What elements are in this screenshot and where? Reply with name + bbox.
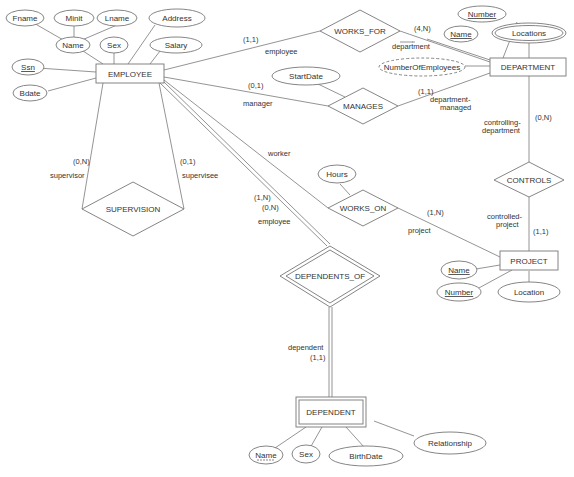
svg-text:Name: Name bbox=[255, 451, 277, 460]
role-works-for-department: department bbox=[392, 42, 431, 51]
svg-text:PROJECT: PROJECT bbox=[510, 257, 547, 266]
attr-fname: Fname bbox=[6, 10, 44, 26]
attr-project-location: Location bbox=[498, 282, 560, 302]
role-dependents-of-employee: employee bbox=[258, 217, 291, 226]
attr-number-of-employees-derived: NumberOfEmployees bbox=[379, 58, 465, 76]
svg-text:DEPENDENT: DEPENDENT bbox=[306, 408, 355, 417]
svg-text:Sex: Sex bbox=[299, 450, 313, 459]
svg-text:Locations: Locations bbox=[512, 29, 546, 38]
svg-text:Name: Name bbox=[62, 41, 84, 50]
svg-text:DEPENDENTS_OF: DEPENDENTS_OF bbox=[295, 272, 365, 281]
svg-text:Number: Number bbox=[468, 10, 497, 19]
attr-relationship: Relationship bbox=[414, 432, 486, 454]
svg-text:WORKS_ON: WORKS_ON bbox=[340, 204, 387, 213]
svg-text:StartDate: StartDate bbox=[289, 72, 323, 81]
svg-text:Bdate: Bdate bbox=[20, 89, 41, 98]
attr-lname: Lname bbox=[97, 10, 137, 26]
svg-text:Ssn: Ssn bbox=[21, 63, 35, 72]
svg-text:Name: Name bbox=[450, 30, 472, 39]
role-manages-manager: manager bbox=[243, 99, 273, 108]
svg-text:CONTROLS: CONTROLS bbox=[507, 176, 551, 185]
attr-bdate: Bdate bbox=[13, 85, 47, 101]
role-works-on-project: project bbox=[408, 226, 431, 235]
role-supervision-supervisor: supervisor bbox=[50, 171, 85, 180]
attr-locations-multivalued: Locations bbox=[492, 23, 566, 43]
role-dependents-of-dependent: dependent bbox=[288, 343, 324, 352]
role-controls-project-line2: project bbox=[496, 220, 519, 229]
role-controls-department-line2: department bbox=[482, 126, 521, 135]
relationship-supervision[interactable]: SUPERVISION bbox=[82, 182, 184, 236]
entity-employee[interactable]: EMPLOYEE bbox=[96, 64, 164, 83]
attr-name: Name bbox=[56, 37, 90, 53]
svg-text:Address: Address bbox=[162, 14, 191, 23]
card-works-on-project: (1,N) bbox=[427, 208, 444, 217]
attr-hours: Hours bbox=[318, 165, 356, 183]
svg-text:BirthDate: BirthDate bbox=[349, 452, 383, 461]
svg-text:Hours: Hours bbox=[326, 170, 347, 179]
svg-text:Minit: Minit bbox=[66, 14, 84, 23]
svg-text:Number: Number bbox=[445, 288, 474, 297]
attr-project-name-key: Name bbox=[441, 261, 477, 279]
svg-text:Fname: Fname bbox=[13, 14, 38, 23]
attr-sex: Sex bbox=[100, 37, 128, 53]
svg-text:Name: Name bbox=[448, 266, 470, 275]
card-supervision-supervisor: (0,N) bbox=[73, 157, 90, 166]
svg-text:EMPLOYEE: EMPLOYEE bbox=[108, 70, 152, 79]
attr-dept-name-key: Name bbox=[444, 26, 478, 42]
card-works-for-employee: (1,1) bbox=[243, 35, 259, 44]
attr-ssn-key: Ssn bbox=[12, 59, 44, 75]
attr-address: Address bbox=[149, 9, 205, 27]
card-manages-employee: (0,1) bbox=[248, 81, 264, 90]
card-supervision-supervisee: (0,1) bbox=[180, 157, 196, 166]
attr-project-number-key: Number bbox=[437, 283, 481, 301]
attr-salary: Salary bbox=[150, 37, 202, 53]
attr-dependent-sex: Sex bbox=[292, 445, 320, 463]
relationship-dependents-of[interactable]: DEPENDENTS_OF bbox=[280, 246, 380, 307]
role-works-on-worker: worker bbox=[267, 149, 291, 158]
svg-text:Lname: Lname bbox=[105, 14, 130, 23]
relationship-works-on[interactable]: WORKS_ON bbox=[328, 190, 398, 226]
card-dependents-of-employee: (0,N) bbox=[262, 203, 279, 212]
svg-text:WORKS_FOR: WORKS_FOR bbox=[334, 27, 386, 36]
entity-project[interactable]: PROJECT bbox=[500, 251, 558, 270]
svg-text:Location: Location bbox=[514, 288, 544, 297]
card-works-for-department: (4,N) bbox=[414, 24, 431, 33]
svg-text:MANAGES: MANAGES bbox=[343, 102, 383, 111]
relationship-works-for[interactable]: WORKS_FOR bbox=[320, 10, 400, 52]
role-supervision-supervisee: supervisee bbox=[182, 171, 218, 180]
card-works-on-employee: (1,N) bbox=[254, 193, 271, 202]
svg-text:Salary: Salary bbox=[165, 41, 188, 50]
relationship-controls[interactable]: CONTROLS bbox=[494, 162, 564, 197]
attr-birthdate: BirthDate bbox=[329, 446, 403, 466]
attr-minit: Minit bbox=[54, 10, 94, 26]
svg-text:SUPERVISION: SUPERVISION bbox=[106, 205, 161, 214]
attr-dependent-name-partial-key: Name bbox=[249, 446, 283, 464]
card-controls-project: (1,1) bbox=[533, 227, 549, 236]
entity-department[interactable]: DEPARTMENT bbox=[490, 58, 566, 76]
role-manages-department-line2: managed bbox=[440, 103, 471, 112]
svg-text:Relationship: Relationship bbox=[428, 439, 473, 448]
svg-text:NumberOfEmployees: NumberOfEmployees bbox=[384, 63, 460, 72]
role-works-for-employee: employee bbox=[265, 47, 298, 56]
svg-text:DEPARTMENT: DEPARTMENT bbox=[501, 63, 555, 72]
card-controls-department: (0,N) bbox=[535, 113, 552, 122]
attr-dept-number-key: Number bbox=[458, 6, 506, 22]
svg-text:Sex: Sex bbox=[107, 41, 121, 50]
attr-startdate: StartDate bbox=[272, 67, 340, 85]
er-diagram: Fname Minit Lname Address Name Sex Salar… bbox=[0, 0, 574, 477]
card-dependents-of-dependent: (1,1) bbox=[310, 353, 326, 362]
entity-dependent[interactable]: DEPENDENT bbox=[296, 397, 366, 427]
